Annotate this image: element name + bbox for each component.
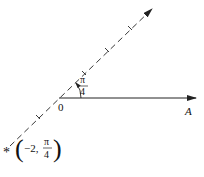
angle-label-denominator: 4 — [80, 86, 85, 97]
ray-ticks — [36, 26, 132, 119]
point-marker: * — [3, 145, 10, 160]
polar-axis-label: A — [184, 105, 192, 117]
point-label-numerator: π — [44, 136, 49, 147]
point-label-denominator: 4 — [44, 149, 49, 160]
point-label-open-paren: ( — [15, 134, 24, 163]
origin-label: 0 — [58, 101, 64, 113]
point-label-r: −2, — [24, 142, 39, 154]
polar-diagram: π 4 0 A * ( −2, π 4 ) — [0, 0, 204, 177]
angle-label-numerator: π — [80, 74, 85, 85]
point-label-close-paren: ) — [53, 134, 62, 163]
